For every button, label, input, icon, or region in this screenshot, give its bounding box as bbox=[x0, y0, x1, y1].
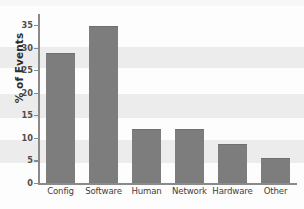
bar-network bbox=[175, 129, 204, 183]
y-tick-label: 0 bbox=[0, 178, 33, 188]
y-tick-label: 35 bbox=[0, 20, 33, 30]
x-tick-label: Config bbox=[39, 186, 82, 196]
bar-other bbox=[261, 158, 290, 183]
bar-human bbox=[132, 129, 161, 183]
y-tick-label: 25 bbox=[0, 65, 33, 75]
bar-software bbox=[89, 26, 118, 183]
x-axis-line bbox=[38, 183, 297, 185]
y-tick-label: 20 bbox=[0, 88, 33, 98]
y-tick-label: 15 bbox=[0, 110, 33, 120]
y-tick-label: 10 bbox=[0, 133, 33, 143]
bar-column bbox=[254, 16, 297, 183]
bar-series bbox=[39, 16, 297, 183]
bar-config bbox=[46, 53, 75, 183]
x-tick-label: Network bbox=[168, 186, 211, 196]
bar-column bbox=[125, 16, 168, 183]
bar-column bbox=[39, 16, 82, 183]
x-tick-label: Other bbox=[254, 186, 297, 196]
x-tick-label: Human bbox=[125, 186, 168, 196]
x-axis-tick-labels: ConfigSoftwareHumanNetworkHardwareOther bbox=[39, 186, 297, 196]
x-tick-label: Software bbox=[82, 186, 125, 196]
y-tick-label: 30 bbox=[0, 43, 33, 53]
bar-chart: % of Events 05101520253035 ConfigSoftwar… bbox=[0, 0, 304, 209]
y-axis-line bbox=[38, 14, 40, 184]
x-tick-label: Hardware bbox=[211, 186, 254, 196]
y-tick-label: 5 bbox=[0, 155, 33, 165]
bar-column bbox=[82, 16, 125, 183]
scan-artifact-band-top bbox=[0, 0, 304, 6]
bar-hardware bbox=[218, 144, 247, 183]
bar-column bbox=[211, 16, 254, 183]
bar-column bbox=[168, 16, 211, 183]
